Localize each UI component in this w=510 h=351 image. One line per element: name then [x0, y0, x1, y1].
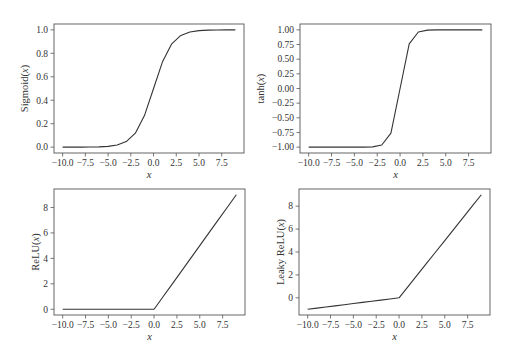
- axes-frame: [54, 189, 245, 315]
- x-axis-label: x: [146, 169, 152, 180]
- x-tick-label: −7.5: [323, 158, 340, 168]
- y-tick-label: 0: [288, 293, 293, 303]
- axes-frame: [54, 24, 244, 153]
- y-tick-label: 0.2: [36, 119, 48, 129]
- y-tick-label: −0.25: [272, 98, 294, 108]
- x-tick-label: 0.0: [148, 158, 160, 168]
- x-tick-label: −5.0: [100, 320, 117, 330]
- x-axis-label: x: [392, 169, 398, 180]
- y-tick-label: −0.75: [272, 128, 294, 138]
- x-tick-label: −2.5: [368, 320, 385, 330]
- x-axis-label: x: [391, 331, 397, 342]
- tanh-curve: [309, 30, 483, 147]
- y-tick-label: 8: [288, 201, 293, 211]
- y-tick-label: 4: [288, 247, 293, 257]
- activation-functions-figure: −10.0−7.5−5.0−2.50.02.55.07.50.00.20.40.…: [0, 0, 510, 351]
- x-tick-label: −5.0: [346, 158, 363, 168]
- y-axis-label: ReLU(x): [30, 233, 42, 271]
- subplot-relu: −10.0−7.5−5.0−2.50.02.55.07.502468xReLU(…: [30, 189, 245, 342]
- x-tick-label: −2.5: [369, 158, 386, 168]
- x-tick-label: 7.5: [217, 320, 229, 330]
- x-tick-label: 2.5: [171, 320, 183, 330]
- relu-curve: [63, 195, 237, 310]
- y-tick-label: 0.00: [277, 84, 294, 94]
- x-tick-label: 7.5: [462, 320, 474, 330]
- x-tick-label: 5.0: [193, 158, 205, 168]
- x-tick-label: 5.0: [194, 320, 206, 330]
- y-tick-label: −0.50: [272, 113, 294, 123]
- x-axis-label: x: [146, 331, 152, 342]
- y-tick-label: 2: [43, 279, 48, 289]
- y-tick-label: 0.4: [36, 96, 48, 106]
- subplot-tanh: −10.0−7.5−5.0−2.50.02.55.07.5−1.00−0.75−…: [255, 24, 491, 180]
- x-tick-label: −7.5: [77, 320, 94, 330]
- subplot-sigmoid: −10.0−7.5−5.0−2.50.02.55.07.50.00.20.40.…: [19, 24, 244, 180]
- y-tick-label: 8: [43, 203, 48, 213]
- x-tick-label: 0.0: [393, 320, 405, 330]
- y-axis-label: Sigmoid(x): [19, 64, 31, 112]
- x-tick-label: −10.0: [297, 320, 319, 330]
- leaky_relu-curve: [308, 195, 482, 310]
- x-tick-label: 5.0: [440, 158, 452, 168]
- y-tick-label: 0.75: [277, 40, 294, 50]
- y-tick-label: 0.25: [277, 69, 294, 79]
- x-tick-label: −10.0: [52, 320, 74, 330]
- subplot-leaky-relu: −10.0−7.5−5.0−2.50.02.55.07.502468xLeaky…: [275, 189, 490, 342]
- y-tick-label: 4: [43, 254, 48, 264]
- y-tick-label: 2: [288, 270, 293, 280]
- x-tick-label: 2.5: [417, 158, 429, 168]
- x-tick-label: −10.0: [298, 158, 320, 168]
- y-tick-label: 1.00: [277, 25, 294, 35]
- x-tick-label: −7.5: [322, 320, 339, 330]
- x-tick-label: 2.5: [170, 158, 182, 168]
- x-tick-label: 5.0: [439, 320, 451, 330]
- x-tick-label: −5.0: [345, 320, 362, 330]
- axes-frame: [299, 189, 490, 315]
- x-tick-label: −2.5: [123, 320, 140, 330]
- y-tick-label: 0.0: [36, 142, 48, 152]
- y-tick-label: 6: [43, 228, 48, 238]
- sigmoid-curve: [63, 30, 236, 147]
- x-tick-label: −2.5: [122, 158, 139, 168]
- y-tick-label: 0.8: [36, 49, 48, 59]
- x-tick-label: 0.0: [148, 320, 160, 330]
- x-tick-label: 2.5: [416, 320, 428, 330]
- axes-frame: [300, 24, 491, 153]
- x-tick-label: 7.5: [463, 158, 475, 168]
- x-tick-label: −7.5: [77, 158, 94, 168]
- y-axis-label: tanh(x): [255, 73, 267, 103]
- y-tick-label: −1.00: [272, 142, 294, 152]
- y-tick-label: 0.6: [36, 72, 48, 82]
- y-tick-label: 1.0: [36, 25, 48, 35]
- x-tick-label: 7.5: [216, 158, 228, 168]
- x-tick-label: 0.0: [394, 158, 406, 168]
- y-tick-label: 0: [43, 305, 48, 315]
- y-tick-label: 0.50: [277, 54, 294, 64]
- x-tick-label: −5.0: [99, 158, 116, 168]
- y-tick-label: 6: [288, 224, 293, 234]
- x-tick-label: −10.0: [52, 158, 74, 168]
- y-axis-label: Leaky ReLU(x): [275, 218, 287, 285]
